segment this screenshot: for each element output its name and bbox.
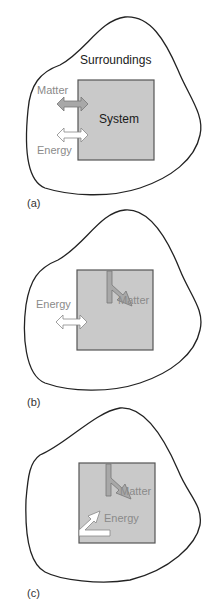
energy-label: Energy — [36, 298, 71, 310]
matter-label: Matter — [120, 485, 151, 497]
system-box — [77, 270, 153, 350]
system-label: System — [99, 112, 139, 126]
energy-double-arrow-icon — [56, 315, 87, 329]
panel-a — [27, 17, 201, 195]
panel-caption-c: (c) — [27, 587, 40, 599]
energy-label: Energy — [37, 144, 72, 156]
energy-double-arrow-icon — [57, 128, 88, 142]
energy-label: Energy — [104, 512, 139, 524]
panel-caption-a: (a) — [27, 197, 40, 209]
panel-caption-b: (b) — [27, 396, 40, 408]
panel-c — [26, 408, 201, 582]
matter-double-arrow-icon — [57, 97, 88, 111]
matter-label: Matter — [37, 84, 68, 96]
diagram-canvas — [0, 0, 206, 602]
surroundings-label: Surroundings — [80, 53, 151, 67]
matter-label: Matter — [118, 294, 149, 306]
